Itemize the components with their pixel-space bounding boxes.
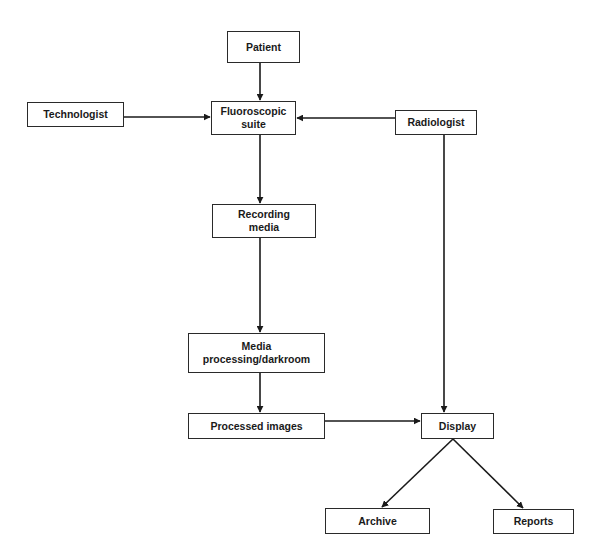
- node-fluoroscopic-suite: Fluoroscopic suite: [211, 101, 296, 135]
- node-technologist: Technologist: [27, 102, 124, 127]
- node-archive: Archive: [325, 508, 430, 534]
- edge-display-to-archive: [382, 439, 453, 507]
- node-reports: Reports: [493, 509, 574, 534]
- node-radiologist: Radiologist: [395, 110, 477, 135]
- node-recording-media: Recording media: [212, 204, 316, 238]
- edge-display-to-reports: [453, 439, 523, 508]
- node-processed-images: Processed images: [188, 413, 325, 439]
- edges-layer: [0, 0, 604, 559]
- node-patient: Patient: [227, 31, 300, 63]
- flowchart-canvas: Patient Technologist Fluoroscopic suite …: [0, 0, 604, 559]
- node-media-processing-darkroom: Media processing/darkroom: [188, 333, 325, 373]
- node-display: Display: [421, 413, 494, 439]
